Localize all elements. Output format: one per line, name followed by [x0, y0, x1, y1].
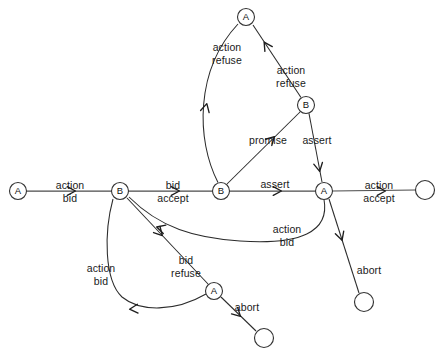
state-diagram-canvas: ABBAABA actionbidbidacceptassertactionac… [0, 0, 443, 360]
node-n5-terminal[interactable] [416, 181, 435, 200]
arrowhead-icon [264, 42, 272, 51]
edge-label-action: assert [260, 178, 289, 191]
arrowhead-icon [201, 104, 210, 113]
edge-label-action: action [363, 179, 395, 192]
edge-n4-to-n10 [329, 199, 359, 293]
edge-label-action: action [276, 64, 306, 77]
terminal-node-circle[interactable] [416, 181, 435, 200]
state-node-label: A [211, 285, 218, 296]
edge-label-reaction: bid [87, 274, 116, 287]
edge-label-e5: actionrefuse [212, 41, 242, 66]
state-node-label: B [218, 185, 224, 196]
edge-label-e2: bidaccept [157, 179, 189, 204]
edge-label-action: promise [249, 134, 287, 147]
edge-label-e10: bidrefuse [171, 254, 201, 279]
edge-label-e9: actionbid [273, 223, 302, 248]
edge-label-action: action [212, 41, 242, 54]
edge-label-reaction: accept [363, 191, 395, 204]
edge-label-reaction: refuse [171, 266, 201, 279]
terminal-node-circle[interactable] [355, 293, 374, 312]
edge-label-e8: assert [302, 134, 331, 147]
node-n7-b[interactable]: B [298, 97, 315, 114]
node-n4-a[interactable]: A [316, 183, 333, 200]
node-n9-terminal[interactable] [255, 329, 274, 348]
node-n10-terminal[interactable] [355, 293, 374, 312]
node-n6-a[interactable]: A [238, 9, 255, 26]
edge-label-action: abort [235, 301, 259, 314]
node-n3-b[interactable]: B [213, 183, 230, 200]
edge-label-e13: abort [357, 264, 381, 277]
edge-label-e4: actionaccept [363, 179, 395, 204]
edge-label-e7: actionrefuse [276, 64, 306, 89]
edge-label-reaction: accept [157, 191, 189, 204]
edge-label-e12: abort [235, 301, 259, 314]
edge-label-e3: assert [260, 178, 289, 191]
node-n1-a[interactable]: A [10, 183, 27, 200]
edge-label-action: abort [357, 264, 381, 277]
edge-label-reaction: refuse [276, 76, 306, 89]
edge-label-reaction: bid [273, 235, 302, 248]
edge-label-reaction: bid [56, 191, 85, 204]
edge-label-e6: promise [249, 134, 287, 147]
edge-label-action: bid [157, 179, 189, 192]
edge-label-action: action [87, 262, 116, 275]
state-node-label: A [321, 185, 328, 196]
state-node-label: A [243, 11, 250, 22]
edge-label-action: assert [302, 134, 331, 147]
state-node-label: B [117, 185, 123, 196]
edge-label-e11: actionbid [87, 262, 116, 287]
edge-label-reaction: refuse [212, 53, 242, 66]
state-node-label: B [303, 99, 309, 110]
edge-label-action: action [56, 179, 85, 192]
node-n2-b[interactable]: B [112, 183, 129, 200]
edge-label-action: bid [171, 254, 201, 267]
node-n8-a[interactable]: A [206, 283, 223, 300]
edge-label-e1: actionbid [56, 179, 85, 204]
edges-layer [27, 24, 416, 331]
edge-n3-to-n7 [227, 112, 300, 184]
arrowhead-icon [130, 304, 138, 313]
state-node-label: A [15, 185, 22, 196]
edge-label-action: action [273, 223, 302, 236]
terminal-node-circle[interactable] [255, 329, 274, 348]
